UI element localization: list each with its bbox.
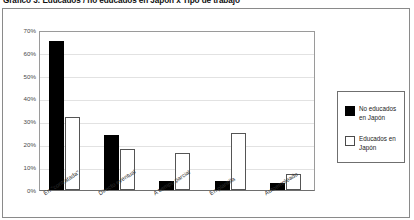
bar-group [40, 32, 95, 190]
x-axis: En "contratada"Directo eventualA tiempo … [39, 192, 315, 220]
bar-group [261, 32, 316, 190]
y-tick-label: 0% [6, 188, 36, 194]
chart-legend: No educados en JapónEducados en Japón [337, 91, 405, 163]
plot-area [39, 31, 315, 191]
legend-swatch-icon [345, 136, 355, 146]
chart-page: Gráfico 3: Educados / no educados en Jap… [0, 0, 414, 220]
y-tick-label: 30% [6, 119, 36, 125]
bar-group [150, 32, 205, 190]
legend-item: Educados en Japón [345, 135, 403, 152]
y-tick-label: 40% [6, 96, 36, 102]
legend-item: No educados en Japón [345, 105, 403, 122]
chart-title: Gráfico 3: Educados / no educados en Jap… [3, 0, 403, 5]
y-tick-label: 20% [6, 142, 36, 148]
y-tick-label: 60% [6, 51, 36, 57]
legend-swatch-icon [345, 106, 355, 116]
legend-label: Educados en Japón [359, 135, 403, 152]
bar-group [206, 32, 261, 190]
bar-group [95, 32, 150, 190]
bar [49, 41, 64, 190]
chart-frame: 0%10%20%30%40%50%60%70% En "contratada"D… [2, 8, 410, 218]
y-tick-label: 50% [6, 74, 36, 80]
y-tick-label: 10% [6, 165, 36, 171]
y-axis: 0%10%20%30%40%50%60%70% [3, 31, 36, 191]
y-tick-label: 70% [6, 28, 36, 34]
legend-label: No educados en Japón [359, 105, 403, 122]
